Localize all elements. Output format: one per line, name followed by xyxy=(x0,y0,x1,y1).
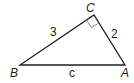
triangle-abc xyxy=(20,15,125,65)
side-label-ab: c xyxy=(69,66,75,80)
vertex-label-a: A xyxy=(120,66,129,80)
side-label-bc: 3 xyxy=(50,25,57,39)
triangle-diagram: C B A 3 2 c xyxy=(0,0,134,83)
vertex-label-c: C xyxy=(86,1,95,15)
side-label-ca: 2 xyxy=(111,27,118,41)
vertex-label-b: B xyxy=(10,66,18,80)
